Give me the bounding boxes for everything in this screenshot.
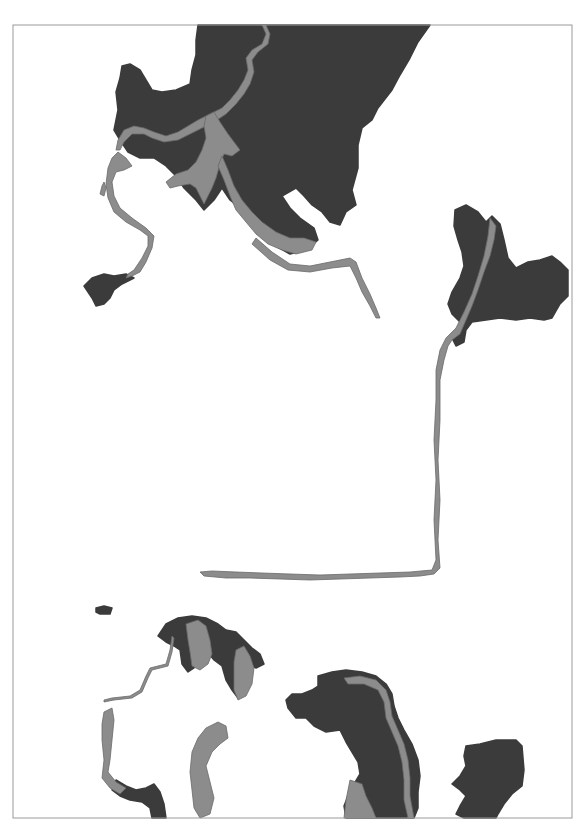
watershed-map [0,0,587,836]
southwest-islet [96,606,112,614]
